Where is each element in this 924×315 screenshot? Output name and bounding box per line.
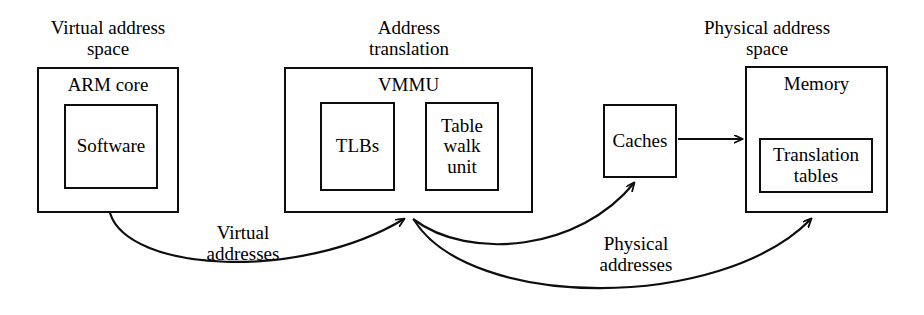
box-label-translation-tables: Translation tables (773, 145, 859, 186)
edge-label-virtual-addresses: Virtual addresses (173, 222, 313, 265)
box-table-walk-unit[interactable]: Table walk unit (425, 102, 499, 191)
group-label-address-translation: Address translation (309, 17, 509, 60)
box-tlbs[interactable]: TLBs (320, 102, 395, 191)
box-label-caches: Caches (613, 131, 668, 152)
group-label-virtual-address-space: Virtual address space (8, 17, 208, 60)
box-label-software: Software (77, 136, 146, 157)
group-label-physical-address-space: Physical address space (667, 17, 867, 60)
box-translation-tables[interactable]: Translation tables (759, 138, 873, 193)
diagram-canvas: Virtual address space Address translatio… (0, 0, 924, 315)
box-label-tlbs: TLBs (336, 136, 379, 157)
box-title-vmmu: VMMU (286, 75, 531, 95)
edge-label-physical-addresses: Physical addresses (566, 233, 706, 276)
box-caches[interactable]: Caches (603, 104, 677, 178)
box-label-table-walk-unit: Table walk unit (441, 116, 483, 178)
box-title-arm-core: ARM core (39, 75, 177, 95)
box-software[interactable]: Software (64, 104, 158, 189)
box-title-memory: Memory (747, 74, 886, 94)
